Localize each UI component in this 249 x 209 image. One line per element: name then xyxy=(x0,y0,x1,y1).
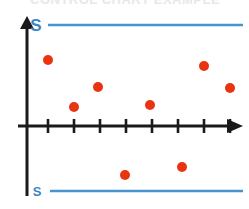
data-point-5 xyxy=(145,100,155,110)
scatter-plot-canvas: S S xyxy=(0,0,249,209)
data-point-4 xyxy=(120,170,130,180)
upper-control-limit-label: S xyxy=(30,16,41,35)
data-point-group xyxy=(43,55,235,180)
data-point-7 xyxy=(199,61,209,71)
data-point-1 xyxy=(43,55,53,65)
data-point-2 xyxy=(69,102,79,112)
data-point-6 xyxy=(177,162,187,172)
data-point-3 xyxy=(93,82,103,92)
lower-control-limit-label: S xyxy=(33,184,42,199)
data-point-8 xyxy=(225,83,235,93)
control-chart-figure: CONTROL CHART EXAMPLE S S xyxy=(0,0,249,209)
